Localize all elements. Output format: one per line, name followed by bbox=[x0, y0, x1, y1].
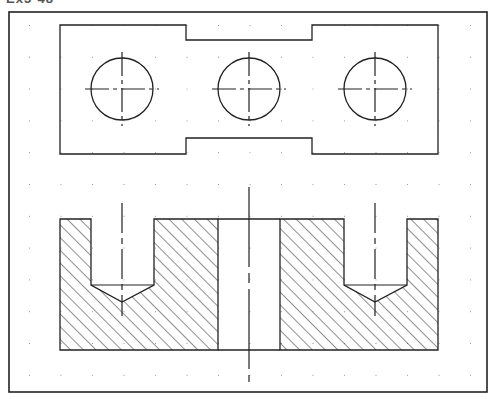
grid-dot bbox=[439, 184, 440, 185]
grid-dot bbox=[155, 89, 156, 90]
grid-dot bbox=[155, 375, 156, 376]
grid-dot bbox=[407, 57, 408, 58]
grid-dot bbox=[29, 152, 30, 153]
grid-dot bbox=[376, 375, 377, 376]
grid-dot bbox=[124, 279, 125, 280]
grid-dot bbox=[281, 120, 282, 121]
grid-dot bbox=[470, 375, 471, 376]
grid-dot bbox=[250, 375, 251, 376]
grid-dot bbox=[155, 184, 156, 185]
grid-dot bbox=[281, 152, 282, 153]
grid-dot bbox=[470, 120, 471, 121]
grid-dot bbox=[281, 216, 282, 217]
grid-dot bbox=[92, 57, 93, 58]
grid-dot bbox=[376, 152, 377, 153]
grid-dot bbox=[92, 152, 93, 153]
grid-dot bbox=[29, 184, 30, 185]
grid-dot bbox=[250, 343, 251, 344]
grid-dot bbox=[250, 311, 251, 312]
grid-dot bbox=[376, 279, 377, 280]
grid-dot bbox=[439, 375, 440, 376]
grid-dot bbox=[407, 152, 408, 153]
grid-dot bbox=[92, 120, 93, 121]
grid-dot bbox=[218, 120, 219, 121]
grid-dot bbox=[29, 216, 30, 217]
grid-dot bbox=[470, 216, 471, 217]
grid-dot bbox=[313, 184, 314, 185]
grid-dot bbox=[439, 216, 440, 217]
grid-dot bbox=[344, 375, 345, 376]
grid-dot bbox=[218, 216, 219, 217]
grid-dot bbox=[29, 25, 30, 26]
grid-dot bbox=[407, 184, 408, 185]
grid-dot bbox=[470, 57, 471, 58]
grid-dot bbox=[187, 57, 188, 58]
grid-dot bbox=[376, 184, 377, 185]
grid-dot bbox=[218, 57, 219, 58]
grid-dot bbox=[281, 89, 282, 90]
grid-dot bbox=[250, 216, 251, 217]
grid-dot bbox=[313, 89, 314, 90]
grid-dot bbox=[61, 184, 62, 185]
grid-dot bbox=[124, 248, 125, 249]
grid-dot bbox=[250, 248, 251, 249]
grid-dot bbox=[470, 152, 471, 153]
grid-dot bbox=[29, 343, 30, 344]
grid-dot bbox=[250, 25, 251, 26]
grid-dot bbox=[187, 375, 188, 376]
grid-dot bbox=[29, 311, 30, 312]
grid-dot bbox=[250, 152, 251, 153]
grid-dot bbox=[313, 216, 314, 217]
grid-dot bbox=[470, 311, 471, 312]
grid-dot bbox=[29, 89, 30, 90]
grid-dot bbox=[92, 248, 93, 249]
grid-dot bbox=[29, 57, 30, 58]
grid-dot bbox=[155, 120, 156, 121]
grid-dot bbox=[29, 279, 30, 280]
grid-dot bbox=[124, 216, 125, 217]
grid-dot bbox=[407, 216, 408, 217]
grid-dot bbox=[250, 184, 251, 185]
grid-dot bbox=[250, 279, 251, 280]
grid-dot bbox=[407, 89, 408, 90]
grid-dot bbox=[470, 184, 471, 185]
grid-dot bbox=[344, 216, 345, 217]
grid-dot bbox=[155, 216, 156, 217]
grid-dot bbox=[344, 120, 345, 121]
grid-dot bbox=[187, 120, 188, 121]
grid-dot bbox=[92, 279, 93, 280]
grid-dot bbox=[155, 57, 156, 58]
grid-dot bbox=[376, 216, 377, 217]
grid-dot bbox=[124, 375, 125, 376]
grid-dot bbox=[29, 248, 30, 249]
grid-dot bbox=[92, 216, 93, 217]
grid-dot bbox=[470, 343, 471, 344]
grid-dot bbox=[218, 375, 219, 376]
grid-dot bbox=[281, 375, 282, 376]
grid-dot bbox=[155, 152, 156, 153]
grid-dot bbox=[61, 216, 62, 217]
grid-dot bbox=[92, 184, 93, 185]
grid-dot bbox=[313, 375, 314, 376]
grid-dot bbox=[218, 25, 219, 26]
grid-dot bbox=[29, 375, 30, 376]
top-view bbox=[60, 25, 438, 154]
grid-dot bbox=[313, 57, 314, 58]
grid-dot bbox=[281, 25, 282, 26]
grid-dot bbox=[313, 120, 314, 121]
grid-dot bbox=[92, 375, 93, 376]
grid-dot bbox=[281, 57, 282, 58]
grid-dot bbox=[124, 184, 125, 185]
grid-dot bbox=[218, 152, 219, 153]
grid-dot bbox=[470, 279, 471, 280]
grid-dot bbox=[187, 216, 188, 217]
grid-dot bbox=[344, 57, 345, 58]
grid-dot bbox=[218, 184, 219, 185]
front-section-view bbox=[60, 187, 438, 382]
grid-dot bbox=[470, 25, 471, 26]
grid-dot bbox=[187, 184, 188, 185]
grid-dot bbox=[61, 375, 62, 376]
grid-dot bbox=[29, 120, 30, 121]
grid-dot bbox=[124, 152, 125, 153]
grid-dot bbox=[407, 120, 408, 121]
